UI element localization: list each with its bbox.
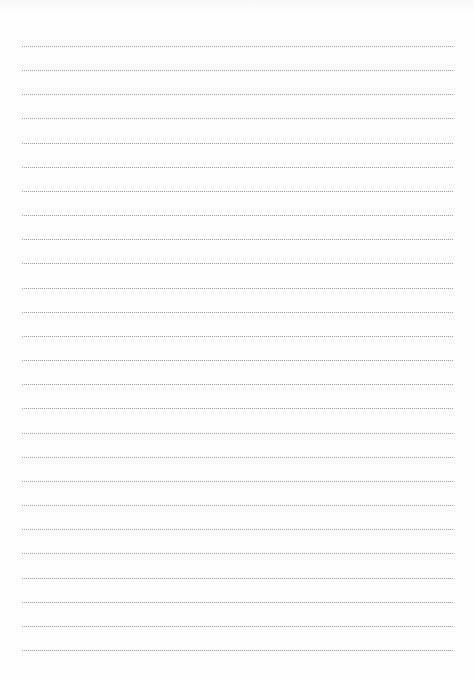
ruled-line <box>22 408 453 409</box>
ruled-line <box>22 505 453 506</box>
ruled-line <box>22 167 453 168</box>
ruled-line <box>22 360 453 361</box>
ruled-line <box>22 336 453 337</box>
ruled-line <box>22 143 453 144</box>
ruled-line <box>22 215 453 216</box>
ruled-line <box>22 384 453 385</box>
ruled-line <box>22 46 453 47</box>
ruled-line <box>22 191 453 192</box>
ruled-line <box>22 602 453 603</box>
show-through-bleed <box>0 0 474 14</box>
ruled-line <box>22 626 453 627</box>
ruled-line <box>22 239 453 240</box>
ruled-line <box>22 650 453 651</box>
ruled-line <box>22 553 453 554</box>
ruled-line <box>22 312 453 313</box>
ruled-line <box>22 263 453 264</box>
ruled-line <box>22 70 453 71</box>
ruled-line <box>22 457 453 458</box>
ruled-line <box>22 529 453 530</box>
lined-paper-page <box>0 0 474 679</box>
ruled-line <box>22 94 453 95</box>
ruled-line <box>22 288 453 289</box>
ruled-line <box>22 433 453 434</box>
ruled-line <box>22 118 453 119</box>
ruled-line <box>22 481 453 482</box>
ruled-line <box>22 578 453 579</box>
